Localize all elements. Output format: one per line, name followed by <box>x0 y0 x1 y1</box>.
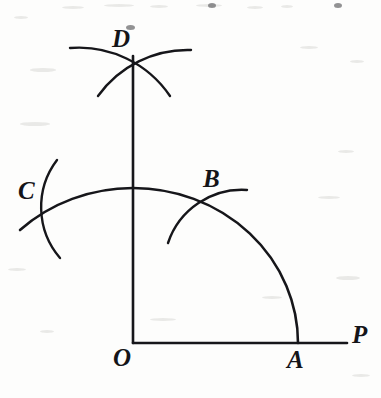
scan-speck <box>30 68 56 72</box>
point-label-a: A <box>287 347 304 372</box>
point-label-p: P <box>352 322 367 347</box>
point-label-b: B <box>203 166 220 191</box>
scan-speck <box>40 330 54 333</box>
scan-speck <box>352 374 370 377</box>
scan-speck <box>126 25 135 30</box>
scan-speck <box>62 6 84 9</box>
scan-speck <box>208 3 216 8</box>
scan-speck <box>150 318 176 321</box>
scan-speck <box>350 60 364 63</box>
geometric-figure: D C B O A P <box>0 0 381 398</box>
point-label-d: D <box>112 26 130 51</box>
scan-speck <box>8 268 26 271</box>
scan-speck <box>336 276 360 280</box>
scan-speck <box>318 196 340 199</box>
scan-speck <box>20 122 50 126</box>
scan-speck <box>300 46 318 49</box>
scan-speck <box>262 296 282 299</box>
point-label-o: O <box>113 345 131 370</box>
compass-arc-b <box>168 190 247 243</box>
scan-speck <box>150 5 168 8</box>
construction-diagram-svg <box>0 0 381 398</box>
scan-speck <box>247 6 263 9</box>
scan-speck <box>338 150 354 153</box>
scan-speck <box>14 16 28 19</box>
scan-speck <box>281 5 293 8</box>
scan-speck <box>334 3 342 8</box>
compass-arc-d-right <box>98 50 191 96</box>
scan-speck <box>104 4 134 7</box>
point-label-c: C <box>18 178 35 203</box>
